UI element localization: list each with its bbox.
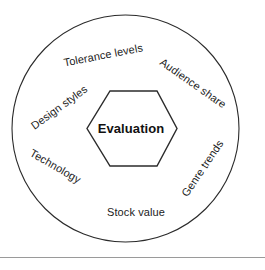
ring-label-stock-value: Stock value <box>107 207 165 218</box>
diagram-canvas: Tolerance levels Audience share Genre tr… <box>0 0 265 270</box>
center-label-evaluation: Evaluation <box>98 122 165 135</box>
